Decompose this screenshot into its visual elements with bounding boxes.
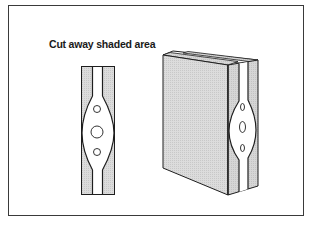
diagram-canvas [0,0,311,226]
cutaway-side-view [82,66,116,195]
center-hole-icon [91,126,103,138]
side-center-hole-icon [240,122,246,133]
assembled-3d-block [163,51,258,195]
side-bottom-hole-icon [241,145,245,152]
side-top-hole-icon [241,104,245,111]
bottom-hole-icon [94,149,101,156]
front-face [163,55,228,195]
top-hole-icon [94,106,101,113]
